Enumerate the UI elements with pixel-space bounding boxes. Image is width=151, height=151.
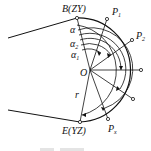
radius-OPx	[90, 70, 108, 119]
radius-OP1	[90, 19, 107, 70]
label-P1: P1	[111, 6, 121, 18]
label-r: r	[75, 89, 79, 100]
label-Px: Px	[107, 123, 117, 135]
lower-tangent-line	[8, 110, 80, 122]
label-O: O	[80, 67, 87, 78]
label-B: B(ZY)	[62, 3, 87, 15]
upper-tangent-line	[8, 18, 77, 38]
label-P2: P2	[135, 30, 145, 42]
radius-O-lowright	[90, 70, 133, 99]
label-E: E(YZ)	[61, 125, 87, 137]
figure-caption-faded	[40, 140, 120, 148]
label-alpha: α	[70, 24, 76, 35]
rotary-mechanism-diagram: B(ZY) P1 P2 α α2 α1 O r E(YZ) Px	[0, 0, 151, 151]
label-alpha1: α1	[71, 49, 79, 61]
